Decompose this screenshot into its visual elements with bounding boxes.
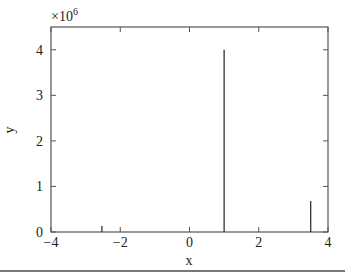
axis-labels: ×106 x y [2, 6, 193, 268]
y-tick-label: 3 [36, 88, 43, 103]
data-stems [102, 50, 311, 232]
x-tick-label: 2 [255, 235, 262, 250]
y-tick-label: 0 [36, 225, 43, 240]
plot-border [51, 27, 328, 232]
y-multiplier: ×106 [51, 6, 78, 24]
axis-ticks: −4−202401234 [36, 27, 332, 250]
y-tick-label: 4 [36, 43, 43, 58]
y-tick-label: 2 [36, 134, 43, 149]
x-tick-label: 4 [325, 235, 332, 250]
x-tick-label: −2 [113, 235, 128, 250]
y-axis-label: y [2, 127, 17, 134]
bottom-separator [0, 270, 345, 272]
x-tick-label: −4 [44, 235, 59, 250]
x-axis-label: x [186, 253, 193, 268]
x-tick-label: 0 [186, 235, 193, 250]
stem-chart: −4−202401234 ×106 x y [0, 0, 345, 274]
y-tick-label: 1 [36, 179, 43, 194]
plot-frame [51, 27, 328, 232]
